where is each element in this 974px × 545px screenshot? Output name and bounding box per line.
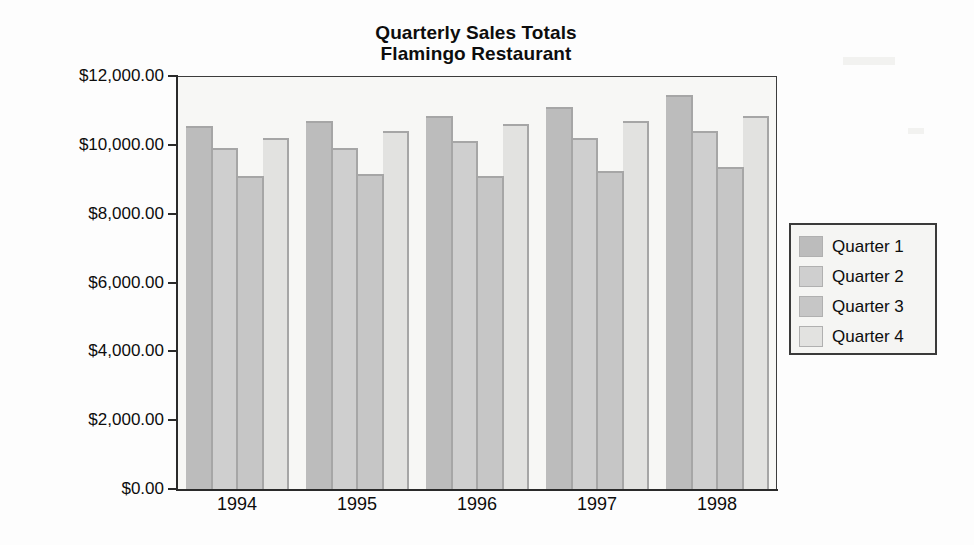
- legend-swatch-icon: [799, 326, 823, 347]
- y-axis-tick: [168, 488, 177, 490]
- legend-item-label: Quarter 1: [832, 238, 904, 255]
- y-axis-tick: [168, 419, 177, 421]
- legend-item-label: Quarter 2: [832, 268, 904, 285]
- bar: [332, 148, 359, 489]
- x-axis-line: [176, 489, 778, 491]
- bar: [263, 138, 290, 489]
- bar: [237, 176, 264, 489]
- scan-artifact: [843, 57, 895, 65]
- x-axis-label: 1997: [577, 494, 617, 515]
- legend-item-label: Quarter 4: [832, 328, 904, 345]
- bar: [383, 131, 410, 489]
- chart-title-block: Quarterly Sales Totals Flamingo Restaura…: [176, 22, 776, 65]
- bar: [572, 138, 599, 489]
- bar: [306, 121, 333, 489]
- legend-swatch-icon: [799, 266, 823, 287]
- legend-swatch-icon: [799, 236, 823, 257]
- bar: [666, 95, 693, 489]
- bar: [717, 167, 744, 489]
- legend-swatch-icon: [799, 296, 823, 317]
- bar: [357, 174, 384, 489]
- bar: [452, 141, 479, 489]
- y-axis-tick: [168, 282, 177, 284]
- y-axis-tick: [168, 213, 177, 215]
- legend-item[interactable]: Quarter 3: [799, 291, 935, 321]
- chart-subtitle: Flamingo Restaurant: [176, 43, 776, 64]
- bar: [503, 124, 530, 489]
- bar: [743, 116, 770, 489]
- chart-legend: Quarter 1Quarter 2Quarter 3Quarter 4: [789, 223, 937, 355]
- y-axis-label: $6,000.00: [8, 273, 164, 293]
- x-axis-label: 1998: [697, 494, 737, 515]
- x-axis-label: 1995: [337, 494, 377, 515]
- x-axis-label: 1996: [457, 494, 497, 515]
- y-axis-label: $4,000.00: [8, 341, 164, 361]
- y-axis-tick: [168, 350, 177, 352]
- y-axis-label: $0.00: [8, 479, 164, 499]
- y-axis-label: $2,000.00: [8, 410, 164, 430]
- bar: [623, 121, 650, 489]
- bar: [477, 176, 504, 489]
- y-axis-tick: [168, 75, 177, 77]
- bar: [597, 171, 624, 489]
- bar: [426, 116, 453, 489]
- bar: [186, 126, 213, 489]
- y-axis-tick: [168, 144, 177, 146]
- bar: [692, 131, 719, 489]
- chart-figure: Quarterly Sales Totals Flamingo Restaura…: [0, 0, 974, 545]
- legend-item-label: Quarter 3: [832, 298, 904, 315]
- y-axis-label: $10,000.00: [8, 135, 164, 155]
- x-axis-label: 1994: [217, 494, 257, 515]
- legend-item[interactable]: Quarter 4: [799, 321, 935, 351]
- scan-artifact: [908, 128, 924, 134]
- bar: [546, 107, 573, 489]
- y-axis-label: $8,000.00: [8, 204, 164, 224]
- y-axis-label: $12,000.00: [8, 66, 164, 86]
- legend-item[interactable]: Quarter 2: [799, 261, 935, 291]
- bar: [212, 148, 239, 489]
- legend-item[interactable]: Quarter 1: [799, 231, 935, 261]
- chart-title: Quarterly Sales Totals: [176, 22, 776, 43]
